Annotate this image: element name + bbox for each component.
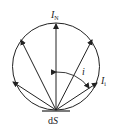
arrow-upper-left xyxy=(21,40,56,110)
lambert-diagram: IN i Ii dS xyxy=(0,0,113,132)
label-IN: IN xyxy=(50,9,59,21)
label-dS: dS xyxy=(48,115,58,126)
label-Ii: Ii xyxy=(100,75,106,87)
label-angle-i: i xyxy=(82,66,85,77)
arrow-intensity-i xyxy=(56,83,97,110)
